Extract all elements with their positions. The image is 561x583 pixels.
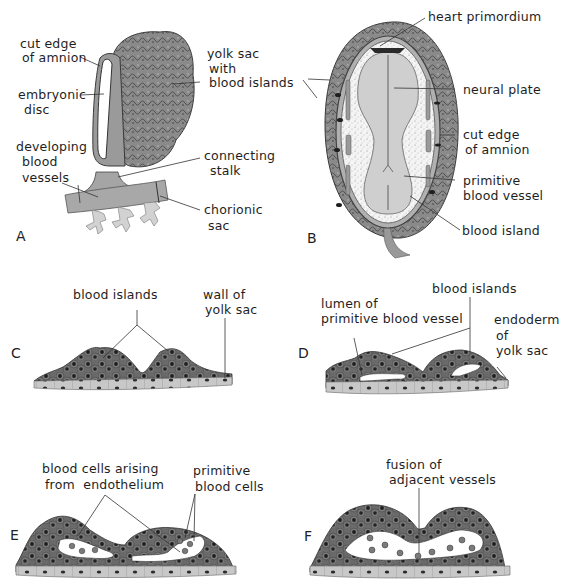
label-text: fusion of: [386, 457, 442, 472]
label-wall-of-yolk-sac: wall of: [203, 288, 245, 302]
label-chorionic-sac: chorionic: [204, 203, 263, 217]
label-endoderm-line3: yolk sac: [496, 344, 548, 358]
label-primitive-blood-cells: primitive: [193, 464, 250, 478]
label-yolk-sac-line3: blood islands: [209, 76, 294, 90]
label-text: lumen of: [321, 296, 378, 311]
label-cut-edge-of-amnion-a: cut edge: [20, 37, 77, 51]
panel-letter-text: B: [307, 230, 317, 246]
label-text: blood islands: [73, 287, 158, 302]
label-fusion-line2: adjacent vessels: [389, 473, 496, 487]
label-text: yolk sac: [496, 343, 548, 358]
label-embryonic-disc-line2: disc: [24, 103, 50, 117]
label-text: chorionic: [204, 202, 263, 217]
label-fusion-of-adjacent-vessels: fusion of: [386, 458, 442, 472]
label-endoderm-of-yolk-sac: endoderm: [494, 313, 560, 327]
label-text: connecting: [204, 148, 275, 163]
label-blood-island: blood island: [462, 224, 540, 238]
label-text: primitive: [193, 463, 250, 478]
label-text: blood: [22, 154, 58, 169]
label-text: endoderm: [494, 312, 560, 327]
panel-letter-b: B: [307, 230, 317, 246]
label-text: of amnion: [22, 50, 87, 65]
label-text: vessels: [22, 170, 69, 185]
label-connecting-stalk-line2: stalk: [210, 164, 241, 178]
label-text: heart primordium: [428, 9, 541, 24]
label-text: blood vessel: [463, 188, 543, 203]
label-primitive-blood-vessel: primitive: [463, 174, 520, 188]
label-text: wall of: [203, 287, 245, 302]
panel-letter-d: D: [298, 345, 309, 361]
label-text: cut edge: [463, 127, 520, 142]
label-neural-plate: neural plate: [463, 83, 541, 97]
label-cut-edge-of-amnion-b: cut edge: [463, 128, 520, 142]
label-heart-primordium: heart primordium: [428, 10, 541, 24]
label-text: disc: [24, 102, 50, 117]
panel-letter-text: F: [304, 528, 312, 544]
label-embryonic-disc: embryonic: [18, 88, 86, 102]
label-text: developing: [16, 139, 87, 154]
label-primitive-blood-cells-line2: blood cells: [195, 480, 264, 494]
figure-yolk-sac-blood-islands: cut edge of amnion embryonic disc develo…: [0, 0, 561, 583]
label-text: blood cells arising: [42, 461, 159, 476]
panel-e-drawing: [16, 516, 236, 577]
label-developing-blood-vessels: developing: [16, 140, 87, 154]
label-developing-blood-vessels-line3: vessels: [22, 171, 69, 185]
panel-d-drawing: [326, 350, 508, 394]
label-text: sac: [208, 218, 230, 233]
label-text: adjacent vessels: [389, 472, 496, 487]
label-yolk-sac-line2: with: [209, 62, 236, 76]
label-primitive-blood-vessel-line2: blood vessel: [463, 189, 543, 203]
panel-letter-text: A: [16, 228, 26, 244]
panel-f-drawing: [310, 505, 510, 578]
label-lumen-line2: primitive blood vessel: [321, 312, 463, 326]
label-text: blood islands: [432, 281, 517, 296]
panel-letter-c: C: [11, 345, 21, 361]
label-connecting-stalk: connecting: [204, 149, 275, 163]
label-chorionic-sac-line2: sac: [208, 219, 230, 233]
label-text: of: [496, 328, 508, 343]
label-endoderm-line2: of: [496, 329, 508, 343]
panel-b-drawing: [325, 22, 458, 258]
label-yolk-sac-with-blood-islands: yolk sac: [207, 47, 259, 61]
label-text: of amnion: [465, 142, 530, 157]
label-text: yolk sac: [207, 46, 259, 61]
panel-letter-text: D: [298, 345, 309, 361]
label-lumen-of-primitive-blood-vessel: lumen of: [321, 297, 378, 311]
label-text: stalk: [210, 163, 241, 178]
panel-letter-text: E: [10, 527, 19, 543]
label-blood-islands-d: blood islands: [432, 282, 517, 296]
panel-letter-a: A: [16, 228, 26, 244]
label-cut-edge-of-amnion-a-line2: of amnion: [22, 51, 87, 65]
panel-letter-e: E: [10, 527, 19, 543]
label-cut-edge-of-amnion-b-line2: of amnion: [465, 143, 530, 157]
label-text: blood islands: [209, 75, 294, 90]
label-blood-cells-arising-from-endothelium: blood cells arising: [42, 462, 159, 476]
label-text: yolk sac: [205, 302, 257, 317]
label-arising-line2: from endothelium: [45, 478, 164, 492]
label-blood-islands-c: blood islands: [73, 288, 158, 302]
label-text: primitive blood vessel: [321, 311, 463, 326]
panel-c-drawing: [34, 347, 232, 389]
label-text: with: [209, 61, 236, 76]
panel-letter-f: F: [304, 528, 312, 544]
label-text: from endothelium: [45, 477, 164, 492]
label-text: blood cells: [195, 479, 264, 494]
label-text: neural plate: [463, 82, 541, 97]
label-text: blood island: [462, 223, 540, 238]
label-text: cut edge: [20, 36, 77, 51]
label-developing-blood-vessels-line2: blood: [22, 155, 58, 169]
label-wall-of-yolk-sac-line2: yolk sac: [205, 303, 257, 317]
label-text: primitive: [463, 173, 520, 188]
panel-letter-text: C: [11, 345, 21, 361]
label-text: embryonic: [18, 87, 86, 102]
